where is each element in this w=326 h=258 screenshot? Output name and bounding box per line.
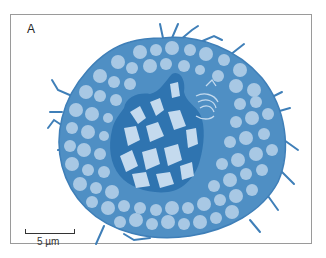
scale-bar-label: 5 µm (37, 236, 59, 247)
scale-bar (25, 229, 75, 234)
cell-illustration (0, 0, 326, 258)
